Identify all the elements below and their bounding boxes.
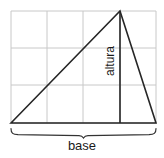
grid-lines [11,11,156,123]
base-brace-icon [11,129,156,139]
base-label: base [0,139,164,152]
triangle-diagram-svg [0,0,164,158]
triangle-figure: base altura [0,0,164,158]
altura-label: altura [104,46,116,76]
